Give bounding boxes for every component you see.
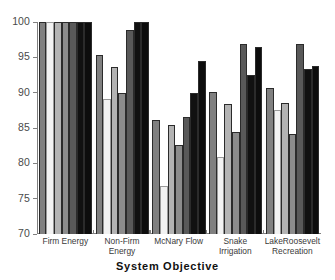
bar bbox=[190, 93, 198, 234]
y-axis-tick-label: 75 bbox=[18, 192, 30, 204]
x-axis-category-label: Non-Firm Energy bbox=[94, 236, 151, 256]
x-axis-category-label: Firm Energy bbox=[37, 236, 94, 256]
y-axis-tick-label: 100 bbox=[12, 15, 30, 27]
bar bbox=[62, 22, 70, 234]
x-axis-category-label: LakeRoosevelt Recreation bbox=[264, 236, 321, 256]
y-axis-tick-label: 85 bbox=[18, 121, 30, 133]
bar bbox=[69, 22, 77, 234]
bar bbox=[183, 117, 191, 234]
bar-group bbox=[94, 22, 151, 234]
bar-groups bbox=[37, 22, 321, 234]
bar-group bbox=[37, 22, 94, 234]
bar bbox=[224, 104, 232, 234]
bar bbox=[126, 30, 134, 234]
y-axis-tick-label: 80 bbox=[18, 156, 30, 168]
x-axis-title: System Objective bbox=[0, 260, 335, 272]
bar bbox=[39, 22, 47, 234]
bar bbox=[175, 145, 183, 234]
bar bbox=[198, 61, 206, 234]
bar bbox=[266, 88, 274, 234]
bar-group-bars bbox=[37, 22, 94, 234]
bar bbox=[46, 22, 54, 234]
y-axis-tick-label: 90 bbox=[18, 86, 30, 98]
bar bbox=[111, 67, 119, 234]
bar bbox=[274, 110, 282, 234]
bar bbox=[240, 44, 248, 234]
bar-group-bars bbox=[94, 22, 151, 234]
bar bbox=[304, 69, 312, 234]
bar bbox=[312, 66, 320, 234]
bar bbox=[54, 22, 62, 234]
bar-group-bars bbox=[151, 22, 208, 234]
bar bbox=[255, 47, 263, 234]
bar bbox=[96, 55, 104, 234]
bar bbox=[134, 22, 142, 234]
bar-chart: 707580859095100 Firm EnergyNon-Firm Ener… bbox=[0, 0, 335, 280]
bar-group-bars bbox=[264, 22, 321, 234]
bar bbox=[160, 186, 168, 234]
bar bbox=[168, 125, 176, 234]
bar bbox=[103, 99, 111, 234]
x-axis-category-label: McNary Flow bbox=[150, 236, 207, 256]
bar bbox=[232, 132, 240, 234]
bar bbox=[209, 92, 217, 234]
bar bbox=[84, 22, 92, 234]
bar bbox=[296, 44, 304, 234]
bar-group-bars bbox=[207, 22, 264, 234]
bar-group bbox=[207, 22, 264, 234]
bar-group bbox=[151, 22, 208, 234]
y-axis-tick-label: 70 bbox=[18, 227, 30, 239]
y-axis-tick-label: 95 bbox=[18, 50, 30, 62]
x-axis-category-label: Snake Irrigation bbox=[207, 236, 264, 256]
y-axis: 707580859095100 bbox=[0, 22, 37, 234]
bar bbox=[141, 22, 149, 234]
bar bbox=[152, 120, 160, 234]
bar bbox=[118, 93, 126, 234]
plot-area bbox=[37, 22, 321, 234]
bar-group bbox=[264, 22, 321, 234]
bar bbox=[281, 103, 289, 234]
bar bbox=[77, 22, 85, 234]
bar bbox=[217, 157, 225, 234]
bar bbox=[247, 75, 255, 234]
x-axis-tick-labels: Firm EnergyNon-Firm EnergyMcNary FlowSna… bbox=[37, 236, 321, 256]
bar bbox=[289, 134, 297, 234]
